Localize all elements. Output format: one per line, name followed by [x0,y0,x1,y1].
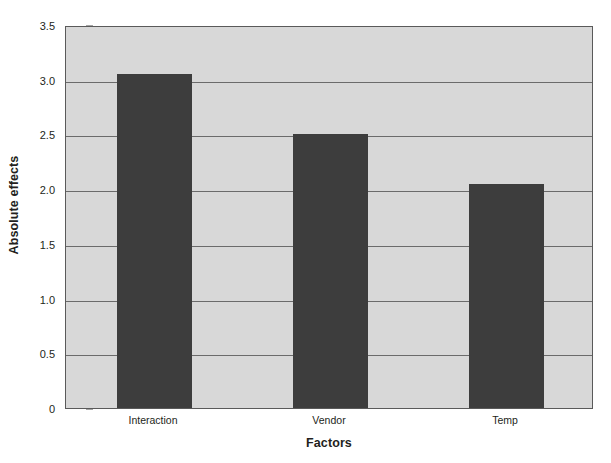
x-axis-tick-label: Interaction [128,414,177,426]
y-axis-tick-label: 2.0 [40,184,55,196]
y-axis-tick-label: 1.0 [40,294,55,306]
y-axis-tick-label: 0.5 [40,348,55,360]
bar [117,74,192,408]
y-axis-title: Absolute effects [0,0,28,409]
plot-area [65,26,593,409]
y-axis-tick-label: 1.5 [40,239,55,251]
y-axis-tick-labels: 00.51.01.52.02.53.03.5 [28,0,61,463]
y-axis-tick-label: 0 [49,403,55,415]
bar [293,134,368,408]
y-axis-tick-label: 3.0 [40,75,55,87]
y-axis-title-text: Absolute effects [7,155,21,254]
x-axis-tick-labels: InteractionVendorTemp [65,414,593,432]
x-axis-tick-label: Vendor [312,414,345,426]
x-axis-tick-label: Temp [492,414,518,426]
bar-chart-figure: Absolute effects 00.51.01.52.02.53.03.5 … [0,0,611,463]
bars-layer [66,27,592,408]
y-axis-tick-label: 2.5 [40,129,55,141]
y-axis-tick-label: 3.5 [40,20,55,32]
x-axis-title: Factors [65,436,593,450]
bar [469,184,544,408]
